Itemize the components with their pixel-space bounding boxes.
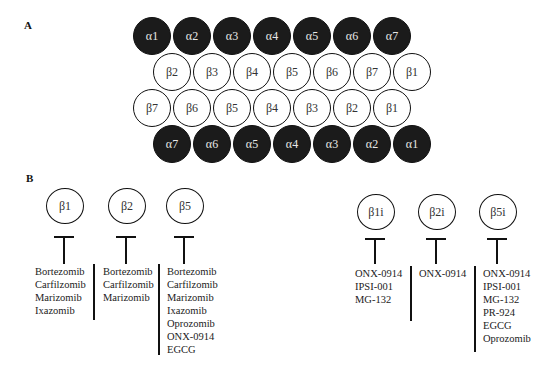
subunit-alpha2-bottom: α2 bbox=[353, 125, 391, 163]
inhibitor-name: Carfilzomib bbox=[103, 278, 154, 291]
inhibitor-name: Bortezomib bbox=[103, 265, 154, 278]
beta5-inhibitor-list: Bortezomib Carfilzomib Marizomib Ixazomi… bbox=[167, 265, 218, 356]
subunit-beta7-lower: β7 bbox=[133, 89, 171, 127]
subunit-beta1-lower: β1 bbox=[373, 89, 411, 127]
inhibitor-name: ONX-0914 bbox=[355, 267, 402, 280]
inhibitor-name: Oprozomib bbox=[167, 317, 218, 330]
subunit-beta5-lower: β5 bbox=[213, 89, 251, 127]
inhibitor-name: Carfilzomib bbox=[35, 278, 86, 291]
subunit-beta4-upper: β4 bbox=[233, 53, 271, 91]
subunit-alpha4-bottom: α4 bbox=[273, 125, 311, 163]
inhibitor-name: Marizomib bbox=[167, 291, 218, 304]
subunit-beta4-lower: β4 bbox=[253, 89, 291, 127]
inhibitor-name: PR-924 bbox=[483, 306, 531, 319]
subunit-beta5-upper: β5 bbox=[273, 53, 311, 91]
inhibitor-name: Oprozomib bbox=[483, 332, 531, 345]
subunit-alpha2-top: α2 bbox=[173, 17, 211, 55]
inhibition-stem bbox=[374, 238, 376, 264]
inhibitor-name: MG-132 bbox=[355, 293, 402, 306]
beta1-inhibitor-list: Bortezomib Carfilzomib Marizomib Ixazomi… bbox=[35, 265, 86, 317]
beta2i-subunit: β2i bbox=[418, 194, 456, 230]
beta5-subunit: β5 bbox=[166, 188, 204, 224]
beta5i-inhibitor-list: ONX-0914 IPSI-001 MG-132 PR-924 EGCG Opr… bbox=[483, 267, 531, 345]
beta2-inhibitor-list: Bortezomib Carfilzomib Marizomib bbox=[103, 265, 154, 304]
inhibitor-name: Carfilzomib bbox=[167, 278, 218, 291]
inhibitor-name: Marizomib bbox=[103, 291, 154, 304]
inhibitor-name: ONX-0914 bbox=[419, 267, 466, 280]
subunit-alpha4-top: α4 bbox=[253, 17, 291, 55]
inhibitor-name: Bortezomib bbox=[167, 265, 218, 278]
subunit-alpha6-bottom: α6 bbox=[193, 125, 231, 163]
subunit-alpha7-bottom: α7 bbox=[153, 125, 191, 163]
inhibition-stem bbox=[125, 236, 127, 264]
beta1-subunit: β1 bbox=[46, 188, 84, 224]
subunit-alpha5-top: α5 bbox=[293, 17, 331, 55]
inhibitor-name: ONX-0914 bbox=[167, 330, 218, 343]
subunit-beta6-lower: β6 bbox=[173, 89, 211, 127]
subunit-beta1-upper: β1 bbox=[393, 53, 431, 91]
subunit-beta3-upper: β3 bbox=[193, 53, 231, 91]
subunit-alpha3-bottom: α3 bbox=[313, 125, 351, 163]
beta1i-subunit: β1i bbox=[357, 194, 395, 230]
subunit-beta2-upper: β2 bbox=[153, 53, 191, 91]
inhibitor-name: Bortezomib bbox=[35, 265, 86, 278]
beta2i-inhibitor-list: ONX-0914 bbox=[419, 267, 466, 280]
beta5i-subunit: β5i bbox=[479, 194, 517, 230]
subunit-beta7-upper: β7 bbox=[353, 53, 391, 91]
subunit-beta2-lower: β2 bbox=[333, 89, 371, 127]
divider bbox=[474, 266, 476, 352]
inhibitor-name: Ixazomib bbox=[35, 304, 86, 317]
divider bbox=[93, 264, 95, 320]
inhibition-stem bbox=[63, 236, 65, 264]
subunit-alpha5-bottom: α5 bbox=[233, 125, 271, 163]
inhibitor-name: EGCG bbox=[167, 343, 218, 356]
inhibitor-name: IPSI-001 bbox=[355, 280, 402, 293]
inhibition-stem bbox=[435, 238, 437, 264]
subunit-beta3-lower: β3 bbox=[293, 89, 331, 127]
beta1i-inhibitor-list: ONX-0914 IPSI-001 MG-132 bbox=[355, 267, 402, 306]
subunit-beta6-upper: β6 bbox=[313, 53, 351, 91]
beta2-subunit: β2 bbox=[108, 188, 146, 224]
subunit-alpha7-top: α7 bbox=[373, 17, 411, 55]
inhibitor-name: IPSI-001 bbox=[483, 280, 531, 293]
inhibition-stem bbox=[183, 236, 185, 264]
panel-a-label: A bbox=[24, 19, 32, 31]
subunit-alpha6-top: α6 bbox=[333, 17, 371, 55]
divider bbox=[410, 266, 412, 321]
inhibitor-name: Ixazomib bbox=[167, 304, 218, 317]
subunit-alpha1-top: α1 bbox=[133, 17, 171, 55]
subunit-alpha3-top: α3 bbox=[213, 17, 251, 55]
inhibitor-name: MG-132 bbox=[483, 293, 531, 306]
inhibitor-name: Marizomib bbox=[35, 291, 86, 304]
panel-b-label: B bbox=[26, 172, 33, 184]
inhibitor-name: ONX-0914 bbox=[483, 267, 531, 280]
subunit-alpha1-bottom: α1 bbox=[393, 125, 431, 163]
divider bbox=[158, 264, 160, 355]
inhibition-stem bbox=[496, 238, 498, 264]
inhibitor-name: EGCG bbox=[483, 319, 531, 332]
